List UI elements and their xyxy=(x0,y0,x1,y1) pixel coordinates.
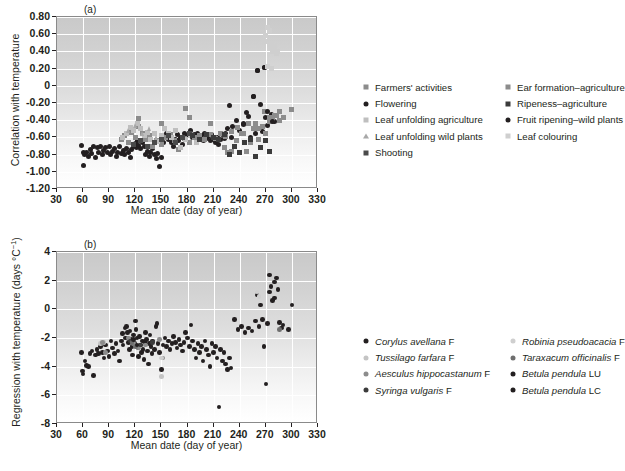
y-axis-tick-label: -0.40 xyxy=(6,113,50,125)
x-axis-tick xyxy=(82,423,83,427)
data-point xyxy=(131,337,136,342)
square-marker-icon xyxy=(360,82,371,93)
data-point xyxy=(197,137,202,142)
y-axis-tick xyxy=(52,154,56,155)
gridline-horizontal xyxy=(57,172,316,173)
data-point xyxy=(86,364,91,369)
y-axis-tick-label: 0.80 xyxy=(6,10,50,22)
panel-b-x-axis-title: Mean date (day of year) xyxy=(56,439,317,451)
square-marker-icon xyxy=(502,82,513,93)
legend-b-column-1: Corylus avellana FTussilago farfara FAes… xyxy=(360,333,507,399)
gridline-vertical xyxy=(240,252,241,422)
data-point xyxy=(159,356,164,361)
data-point xyxy=(140,131,144,136)
data-point xyxy=(274,276,279,281)
circle-marker-icon xyxy=(360,385,371,396)
legend-item[interactable]: Ripeness–agriculture xyxy=(502,95,622,111)
data-point xyxy=(159,367,164,372)
legend-item[interactable]: Robinia pseudoacacia F xyxy=(507,333,621,349)
y-axis-tick xyxy=(52,394,56,395)
gridline-horizontal xyxy=(57,34,316,35)
data-point xyxy=(159,155,164,160)
data-point xyxy=(206,353,211,358)
panel-b-tag: (b) xyxy=(84,239,96,250)
data-point xyxy=(263,33,268,38)
data-point xyxy=(229,129,234,134)
data-point xyxy=(211,350,216,355)
data-point xyxy=(250,329,255,334)
y-axis-tick-label: -4 xyxy=(6,360,50,372)
legend-item-label: Syringa vulgaris F xyxy=(375,385,452,396)
data-point xyxy=(185,336,190,341)
y-axis-tick xyxy=(52,33,56,34)
data-point xyxy=(237,150,242,155)
legend-panel-a: Farmers' activitiesFloweringLeaf unfoldi… xyxy=(360,79,621,165)
legend-item[interactable]: Tussilago farfara F xyxy=(360,349,507,365)
y-axis-tick-label: 0 xyxy=(6,302,50,314)
data-point xyxy=(244,149,249,154)
gridline-horizontal xyxy=(57,367,316,368)
legend-item[interactable]: Corylus avellana F xyxy=(360,333,507,349)
legend-item[interactable]: Betula pendula LC xyxy=(507,382,621,398)
y-axis-tick xyxy=(52,85,56,86)
data-point xyxy=(133,319,138,324)
gridline-vertical xyxy=(240,17,241,187)
legend-item[interactable]: Leaf unfolding wild plants xyxy=(360,128,502,144)
data-point xyxy=(130,353,135,358)
data-point xyxy=(102,356,107,361)
data-point xyxy=(222,350,227,355)
y-axis-tick-label: -1.00 xyxy=(6,165,50,177)
y-axis-tick xyxy=(52,251,56,252)
data-point xyxy=(180,349,185,354)
data-point xyxy=(204,347,209,352)
data-point xyxy=(183,330,188,335)
data-point xyxy=(131,128,136,133)
y-axis-tick xyxy=(52,102,56,103)
data-point xyxy=(208,121,213,126)
x-axis-tick xyxy=(134,423,135,427)
legend-item-label: Aesculus hippocastanum F xyxy=(375,368,490,379)
square-marker-icon xyxy=(502,98,513,109)
legend-item[interactable]: Shooting xyxy=(360,145,502,161)
legend-item[interactable]: Leaf unfolding agriculture xyxy=(360,112,502,128)
gridline-vertical xyxy=(109,17,110,187)
circle-marker-icon xyxy=(507,368,518,379)
gridline-vertical xyxy=(109,252,110,422)
legend-item[interactable]: Betula pendula LU xyxy=(507,366,621,382)
gridline-vertical xyxy=(83,17,84,187)
data-point xyxy=(263,131,268,136)
data-point xyxy=(253,154,258,159)
legend-a-column-2: Ear formation–agricultureRipeness–agricu… xyxy=(502,79,622,145)
data-point xyxy=(232,144,237,149)
x-axis-tick xyxy=(213,188,214,192)
legend-item[interactable]: Flowering xyxy=(360,95,502,111)
data-point xyxy=(148,333,153,338)
gridline-horizontal xyxy=(57,281,316,282)
legend-item[interactable]: Syringa vulgaris F xyxy=(360,382,507,398)
data-point xyxy=(253,131,258,136)
legend-item[interactable]: Taraxacum officinalis F xyxy=(507,349,621,365)
gridline-horizontal xyxy=(57,69,316,70)
data-point xyxy=(189,323,194,328)
data-point xyxy=(136,116,141,121)
y-axis-tick-label: -0.20 xyxy=(6,96,50,108)
legend-item[interactable]: Aesculus hippocastanum F xyxy=(360,366,507,382)
legend-item-label: Tussilago farfara F xyxy=(375,352,454,363)
legend-item[interactable]: Leaf colouring xyxy=(502,128,622,144)
data-point xyxy=(79,350,84,355)
data-point xyxy=(265,321,270,326)
data-point xyxy=(150,351,155,356)
gridline-vertical xyxy=(83,252,84,422)
gridline-horizontal xyxy=(57,17,316,18)
legend-item-label: Leaf unfolding agriculture xyxy=(375,114,483,125)
data-point xyxy=(159,374,164,379)
panel-a-x-axis-title: Mean date (day of year) xyxy=(56,204,317,216)
data-point xyxy=(91,373,96,378)
legend-item[interactable]: Farmers' activities xyxy=(360,79,502,95)
data-point xyxy=(155,321,160,326)
x-axis-tick xyxy=(239,188,240,192)
legend-item[interactable]: Fruit ripening–wild plants xyxy=(502,112,622,128)
data-point xyxy=(223,362,228,367)
legend-item[interactable]: Ear formation–agriculture xyxy=(502,79,622,95)
y-axis-tick xyxy=(52,308,56,309)
